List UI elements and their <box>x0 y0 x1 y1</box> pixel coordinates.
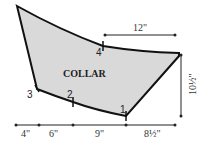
bottom-dimension-label-3: 8½" <box>144 128 161 139</box>
collar-shape <box>17 6 179 116</box>
collar-diagram: 4 2 3 1 COLLAR 12" 10½" 4" 6" 9" 8½" <box>0 0 202 145</box>
bottom-dim-dot-1 <box>38 124 41 127</box>
top-dim-dot-left <box>104 34 107 37</box>
bottom-dimension-label-2: 9" <box>95 128 104 139</box>
point-label-3: 3 <box>27 89 33 100</box>
top-dim-dot-right <box>174 34 177 37</box>
point-label-2: 2 <box>67 89 73 100</box>
bottom-dim-dot-4 <box>174 124 177 127</box>
right-dimension-label: 10½" <box>187 73 198 95</box>
right-dim-dot-top <box>180 54 183 57</box>
bottom-dimension-label-1: 6" <box>49 128 58 139</box>
diagram-title: COLLAR <box>63 68 107 79</box>
bottom-dim-dot-3 <box>125 124 128 127</box>
bottom-dim-dot-2 <box>72 124 75 127</box>
bottom-dim-dot-0 <box>15 124 18 127</box>
bottom-dimension-label-0: 4" <box>21 128 30 139</box>
right-dim-dot-bottom <box>180 115 183 118</box>
point-label-1: 1 <box>120 104 126 115</box>
top-dimension-label: 12" <box>133 22 147 33</box>
point-label-4: 4 <box>96 47 102 58</box>
